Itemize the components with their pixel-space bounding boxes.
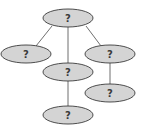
node-bottom: ? (43, 106, 93, 124)
node-middle: ? (43, 63, 93, 81)
node-right: ? (85, 45, 135, 63)
tree-diagram: ? ? ? ? ? ? (0, 0, 146, 136)
node-left: ? (1, 45, 51, 63)
node-label: ? (107, 88, 113, 99)
node-label: ? (65, 110, 71, 121)
node-label: ? (107, 49, 113, 60)
node-root: ? (43, 9, 93, 27)
node-label: ? (23, 49, 29, 60)
edge-root-left (36, 26, 52, 46)
node-label: ? (65, 13, 71, 24)
node-label: ? (65, 67, 71, 78)
edge-root-right (86, 26, 101, 46)
node-right-child: ? (85, 84, 135, 102)
